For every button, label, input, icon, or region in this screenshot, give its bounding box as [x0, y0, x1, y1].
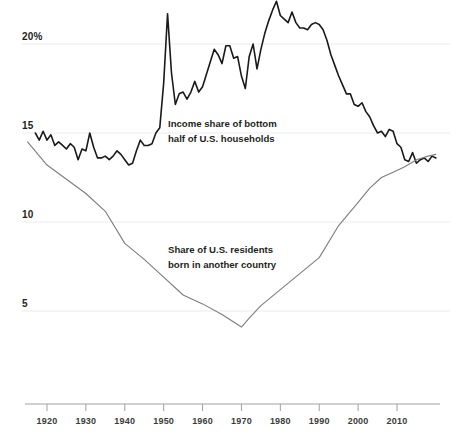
x-axis-tick-label: 1970: [231, 416, 252, 426]
x-axis-tick-label: 1960: [192, 416, 213, 426]
x-axis-tick-label: 2000: [348, 416, 369, 426]
annotation-foreign-born-line2: born in another country: [168, 258, 276, 273]
annotation-foreign-born: Share of U.S. residents born in another …: [168, 243, 276, 273]
chart-plot-area: [0, 0, 456, 447]
x-axis-tick-label: 1950: [153, 416, 174, 426]
x-axis-tick-label: 1940: [114, 416, 135, 426]
x-axis-tick-label: 1990: [309, 416, 330, 426]
y-axis-tick-label: 5: [22, 298, 28, 309]
y-axis-tick-label: 20%: [22, 31, 43, 42]
data-series-group: [28, 1, 436, 327]
x-axis-tick-label: 1930: [75, 416, 96, 426]
annotation-income-share-line1: Income share of bottom: [168, 117, 277, 132]
line-foreign-born: [28, 142, 436, 327]
x-axis: [25, 404, 440, 411]
chart-container: 20%15105 1920193019401950196019701980199…: [0, 0, 456, 447]
y-axis-tick-label: 10: [22, 209, 34, 220]
x-axis-tick-label: 1980: [270, 416, 291, 426]
annotation-foreign-born-line1: Share of U.S. residents: [168, 243, 276, 258]
annotation-income-share: Income share of bottom half of U.S. hous…: [168, 117, 277, 147]
annotation-income-share-line2: half of U.S. households: [168, 132, 277, 147]
x-axis-tick-label: 2010: [387, 416, 408, 426]
y-axis-tick-label: 15: [22, 120, 34, 131]
x-axis-tick-label: 1920: [37, 416, 58, 426]
